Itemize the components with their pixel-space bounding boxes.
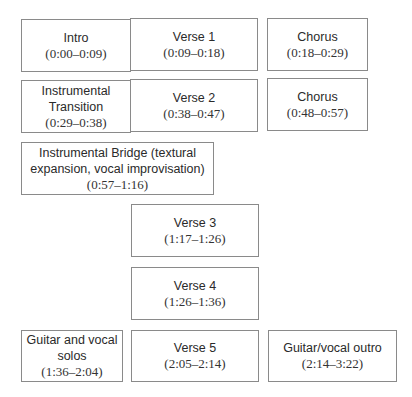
section-time: (0:09–0:18) [163,45,224,61]
section-label: Intro [63,30,88,46]
section-label: Verse 2 [173,90,215,106]
section-time: (0:48–0:57) [287,105,348,121]
section-label-line-1: Instrumental [42,83,111,99]
section-time: (0:18–0:29) [287,45,348,61]
section-time: (1:36–2:04) [41,364,102,380]
section-time: (2:05–2:14) [164,356,225,372]
section-chorus-1: Chorus (0:18–0:29) [267,18,368,71]
section-time: (2:14–3:22) [302,356,363,372]
section-label: Chorus [297,89,337,105]
section-verse-2: Verse 2 (0:38–0:47) [130,79,258,132]
section-guitar-vocal-solos: Guitar and vocal solos (1:36–2:04) [21,330,123,382]
section-instrumental-transition: Instrumental Transition (0:29–0:38) [21,80,131,133]
section-label: Chorus [297,29,337,45]
section-label: Verse 5 [174,340,216,356]
section-verse-4: Verse 4 (1:26–1:36) [131,267,259,320]
section-instrumental-bridge: Instrumental Bridge (textural expansion,… [21,142,214,195]
section-label-line-1: Instrumental Bridge (textural [39,145,196,161]
section-label: Verse 3 [174,215,216,231]
section-time: (0:29–0:38) [45,115,106,131]
section-verse-5: Verse 5 (2:05–2:14) [131,330,259,382]
section-label-line-2: solos [57,348,86,364]
section-time: (1:17–1:26) [164,231,225,247]
section-label: Verse 4 [174,278,216,294]
section-time: (0:00–0:09) [45,46,106,62]
section-time: (0:38–0:47) [163,106,224,122]
section-time: (1:26–1:36) [164,294,225,310]
section-label: Verse 1 [173,29,215,45]
section-label: Guitar/vocal outro [283,340,382,356]
section-intro: Intro (0:00–0:09) [21,19,131,72]
section-verse-1: Verse 1 (0:09–0:18) [130,18,258,71]
section-label-line-2: Transition [49,99,103,115]
section-chorus-2: Chorus (0:48–0:57) [267,78,368,131]
section-label-line-2: expansion, vocal improvisation) [30,161,204,177]
section-verse-3: Verse 3 (1:17–1:26) [131,204,259,257]
section-time: (0:57–1:16) [87,177,148,193]
section-guitar-vocal-outro: Guitar/vocal outro (2:14–3:22) [268,330,397,382]
section-label-line-1: Guitar and vocal [26,332,117,348]
